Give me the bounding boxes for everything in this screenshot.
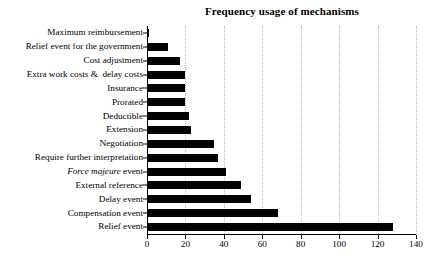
x-axis-tick-label: 60 [258,240,267,249]
bar-row [147,81,416,95]
y-axis-tick-mark [143,74,147,75]
y-axis-tick-mark [143,199,147,200]
y-axis-tick: Cost adjustment [0,54,147,68]
bar-row [147,220,416,234]
bar [147,84,185,92]
y-axis-tick-label: Delay event [99,195,147,204]
x-axis-tick-label: 20 [181,240,190,249]
bar [147,112,189,120]
y-axis-tick: Relief event [0,220,147,234]
chart-title: Frequency usage of mechanisms [147,5,417,17]
y-axis-tick-label: Cost adjustment [84,56,147,65]
y-axis-tick-mark [143,157,147,158]
y-axis-tick: External reference [0,179,147,193]
y-axis-tick: Extra work costs & delay costs [0,68,147,82]
y-axis-tick-label: Maximum reimbursement [47,28,147,37]
y-axis-tick-label: Insurance [107,84,147,93]
bar-row [147,137,416,151]
y-axis-tick-mark [143,185,147,186]
bar [147,140,214,148]
bar [147,168,226,176]
y-axis-line [147,26,148,234]
bar-row [147,206,416,220]
y-axis-tick-mark [143,213,147,214]
bar-row [147,26,416,40]
y-axis-tick-mark [143,227,147,228]
bar-row [147,123,416,137]
bar-row [147,109,416,123]
bar [147,154,218,162]
y-axis-tick-mark [143,88,147,89]
bar [147,43,168,51]
y-axis-tick: Prorated [0,95,147,109]
bar-row [147,54,416,68]
y-axis-tick-mark [143,60,147,61]
y-axis-tick: Maximum reimbursement [0,26,147,40]
y-axis-tick-mark [143,46,147,47]
bar [147,57,180,65]
bar-row [147,40,416,54]
bar-row [147,95,416,109]
bar-row [147,179,416,193]
y-axis-tick: Deductible [0,109,147,123]
y-axis-tick-label: Force majeure event [67,167,147,176]
y-axis-tick-mark [143,129,147,130]
bar [147,98,185,106]
bar-row [147,68,416,82]
bar [147,71,185,79]
y-axis-tick-label: Relief event [98,222,147,231]
y-axis-tick-label: Extension [106,125,147,134]
bar-series [147,26,416,234]
bar-row [147,192,416,206]
y-axis-tick: Relief event for the government [0,40,147,54]
x-axis-tick-label: 40 [219,240,228,249]
y-axis-tick-label: Prorated [112,98,147,107]
plot-area [147,26,416,234]
y-axis-tick: Extension [0,123,147,137]
x-axis-tick-label: 120 [371,240,385,249]
y-axis-tick: Insurance [0,81,147,95]
bar [147,223,393,231]
x-axis-tick-label: 100 [332,240,346,249]
y-axis-tick-label: External reference [75,181,147,190]
y-axis-tick-label: Extra work costs & delay costs [27,70,147,79]
y-axis-tick-label: Compensation event [68,209,147,218]
x-axis-tick-labels: 020406080100120140 [0,235,433,259]
y-axis-tick: Force majeure event [0,165,147,179]
y-axis-tick-label: Deductible [103,112,147,121]
y-axis-tick-labels: Maximum reimbursementRelief event for th… [0,26,147,234]
y-axis-tick-label: Relief event for the government [26,42,147,51]
y-axis-tick: Require further interpretation [0,151,147,165]
y-axis-tick-label: Negotiation [100,139,147,148]
y-axis-tick-mark [143,32,147,33]
x-axis-tick-label: 140 [409,240,423,249]
y-axis-tick: Negotiation [0,137,147,151]
y-axis-tick-label: Require further interpretation [35,153,147,162]
x-axis-tick-label: 80 [296,240,305,249]
bar [147,126,191,134]
x-axis-tick-label: 0 [145,240,150,249]
y-axis-tick-mark [143,171,147,172]
y-axis-tick-mark [143,143,147,144]
y-axis-tick-mark [143,102,147,103]
bar [147,209,278,217]
y-axis-tick-mark [143,116,147,117]
y-axis-tick: Compensation event [0,206,147,220]
bar-row [147,165,416,179]
gridline-140 [416,26,417,234]
bar-row [147,151,416,165]
y-axis-tick: Delay event [0,192,147,206]
bar [147,195,251,203]
bar [147,181,241,189]
bar-chart: Frequency usage of mechanisms Maximum re… [0,0,433,259]
